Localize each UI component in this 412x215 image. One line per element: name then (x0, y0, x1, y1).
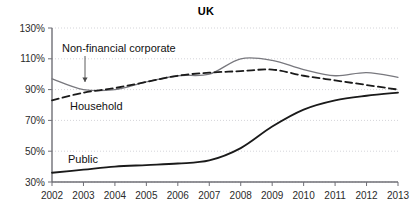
line-chart-plot: 30%50%70%90%110%130% 2002200320042005200… (0, 0, 412, 215)
public-label: Public (68, 153, 98, 165)
chart-container: UK 30%50%70%90%110%130% 2002200320042005… (0, 0, 412, 215)
x-axis-tick-label: 2003 (72, 190, 95, 201)
series-line-household (52, 69, 398, 100)
x-axis-tick-label: 2012 (355, 190, 378, 201)
y-axis-tick-label: 130% (19, 23, 45, 34)
y-axis-tick-label: 30% (25, 177, 45, 188)
x-axis-tick-label: 2005 (135, 190, 158, 201)
y-axis-tick-label: 110% (20, 53, 45, 64)
y-axis-tick-label: 50% (25, 146, 45, 157)
x-axis-tick-label: 2009 (261, 190, 284, 201)
data-series (52, 58, 398, 173)
x-axis-tick-label: 2013 (387, 190, 410, 201)
annotation-arrowhead-icon (82, 78, 87, 83)
series-annotations: Non-financial corporateHouseholdPublic (62, 42, 176, 165)
x-axis-tick-label: 2011 (324, 190, 346, 201)
x-axis-tick-label: 2008 (230, 190, 253, 201)
household-label: Household (70, 100, 123, 112)
corporate-label: Non-financial corporate (62, 42, 176, 54)
x-axis-tick-label: 2006 (167, 190, 190, 201)
y-axis-tick-label: 70% (25, 115, 45, 126)
y-axis-tick-label: 90% (25, 84, 45, 95)
x-axis-tick-label: 2002 (41, 190, 64, 201)
series-line-non-financial-corporate (52, 58, 398, 91)
x-axis-tick-label: 2010 (293, 190, 316, 201)
x-axis-tick-label: 2007 (198, 190, 221, 201)
x-axis-tick-label: 2004 (104, 190, 127, 201)
y-axis-ticks: 30%50%70%90%110%130% (19, 23, 52, 188)
x-axis-ticks: 2002200320042005200620072008200920102011… (41, 182, 410, 201)
